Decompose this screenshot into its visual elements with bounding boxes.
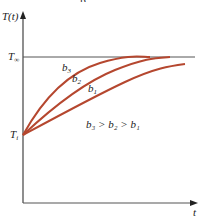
inequality-annotation: b₃ > b₂ > b₁ xyxy=(86,118,140,130)
y-axis-arrow-icon xyxy=(20,11,26,19)
temperature-response-chart: T(t) t T∞ Ti b3 b2 b1 b₃ > b₂ > b₁ xyxy=(0,0,210,222)
curve-label-b1: b1 xyxy=(88,82,97,96)
x-axis-label: t xyxy=(193,206,197,218)
t-i-label: Ti xyxy=(10,128,18,142)
curve-label-b3: b3 xyxy=(62,61,72,75)
y-axis-label: T(t) xyxy=(2,10,19,23)
curve-label-b2: b2 xyxy=(72,72,82,86)
t-inf-label: T∞ xyxy=(8,50,19,64)
